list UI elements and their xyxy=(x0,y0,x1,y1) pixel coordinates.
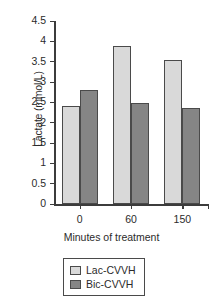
y-tick-mark xyxy=(50,163,54,164)
bar-lac-cvvh-0 xyxy=(62,106,80,204)
y-axis-title: Lactate (mmol/L) xyxy=(32,24,44,194)
legend-swatch-icon xyxy=(70,280,81,289)
bar-bic-cvvh-60 xyxy=(131,103,149,204)
legend-item-lac-cvvh: Lac-CVVH xyxy=(70,263,136,277)
x-tick-label: 150 xyxy=(174,213,192,225)
plot-area: 00.511.522.533.544.5 060150 xyxy=(54,21,208,204)
y-tick-label: 4 xyxy=(40,34,46,46)
x-tick-mark xyxy=(131,204,132,209)
y-tick-label: 3.5 xyxy=(31,55,46,67)
y-tick-label: 3 xyxy=(40,75,46,87)
y-tick-label: 0.5 xyxy=(31,177,46,189)
y-tick-mark xyxy=(50,122,54,123)
legend-swatch-icon xyxy=(70,266,81,275)
bar-lac-cvvh-150 xyxy=(164,60,182,204)
y-tick-mark xyxy=(50,143,54,144)
y-tick-mark xyxy=(50,183,54,184)
chart-legend: Lac-CVVHBic-CVVH xyxy=(63,258,145,296)
bar-bic-cvvh-150 xyxy=(182,108,200,204)
x-axis-title: Minutes of treatment xyxy=(0,231,223,243)
x-tick-mark xyxy=(80,204,81,209)
x-tick-label: 60 xyxy=(125,213,137,225)
y-tick-mark xyxy=(50,21,54,22)
y-tick-mark xyxy=(50,102,54,103)
y-tick-label: 0 xyxy=(40,197,46,209)
y-tick-mark xyxy=(50,82,54,83)
y-tick-label: 2 xyxy=(40,116,46,128)
y-tick-label: 2.5 xyxy=(31,95,46,107)
legend-item-bic-cvvh: Bic-CVVH xyxy=(70,277,136,291)
bar-chart-figure: Lactate (mmol/L) 00.511.522.533.544.5 06… xyxy=(0,0,223,305)
y-axis-line xyxy=(54,21,56,204)
bar-lac-cvvh-60 xyxy=(113,46,131,204)
y-tick-label: 1 xyxy=(40,156,46,168)
x-tick-label: 0 xyxy=(77,213,83,225)
bar-bic-cvvh-0 xyxy=(80,90,98,204)
y-tick-label: 4.5 xyxy=(31,14,46,26)
y-tick-label: 1.5 xyxy=(31,136,46,148)
x-axis-end-mark xyxy=(208,204,209,209)
y-tick-mark xyxy=(50,61,54,62)
legend-label: Bic-CVVH xyxy=(86,278,133,290)
y-tick-mark xyxy=(50,204,54,205)
legend-label: Lac-CVVH xyxy=(86,264,136,276)
x-tick-mark xyxy=(182,204,183,209)
y-tick-mark xyxy=(50,41,54,42)
